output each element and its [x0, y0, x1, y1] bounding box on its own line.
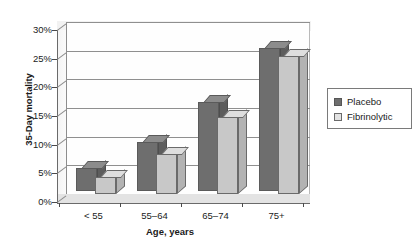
light-gray-swatch: [334, 113, 342, 121]
y-axis-tick-label: 0%: [24, 196, 52, 207]
legend-label: Fibrinolytic: [347, 111, 392, 122]
x-axis-tick-label: < 55: [84, 210, 103, 221]
y-axis-tick-labels: 0%5%10%15%20%25%30%: [24, 0, 52, 251]
x-axis-tick-label: 65–74: [202, 210, 228, 221]
bar-front-face: [259, 48, 280, 191]
y-axis-tick-label: 10%: [24, 139, 52, 150]
x-axis-tick-mark: [120, 203, 121, 207]
bar-front-face: [156, 154, 177, 194]
y-axis-tick-mark: [52, 116, 57, 117]
legend-entry-fibrinolytic: Fibrinolytic: [334, 109, 411, 124]
bar-fibrinolytic-2: [217, 117, 238, 194]
y-axis-tick-mark: [52, 202, 57, 203]
bar-front-face: [95, 177, 116, 194]
bar-fibrinolytic-0: [95, 177, 116, 194]
bar-fibrinolytic-1: [156, 154, 177, 194]
y-axis-tick-label: 30%: [24, 24, 52, 35]
x-axis-line: [57, 203, 310, 204]
bar-side-face: [238, 109, 247, 194]
bar-front-face: [76, 168, 97, 191]
chart-legend: PlaceboFibrinolytic: [327, 88, 412, 129]
x-axis-tick-mark: [242, 203, 243, 207]
bar-placebo-3: [259, 48, 280, 191]
y-axis-tick-label: 5%: [24, 167, 52, 178]
x-axis-tick-mark: [303, 203, 304, 207]
gridline: [66, 22, 310, 23]
y-axis-tick-mark: [52, 87, 57, 88]
bar-side-face: [299, 49, 308, 194]
x-axis-tick-label: 75+: [268, 210, 284, 221]
plot-area: [57, 22, 310, 203]
bar-placebo-1: [137, 142, 158, 191]
x-axis-title: Age, years: [0, 226, 340, 237]
bar-fibrinolytic-3: [278, 56, 299, 194]
dark-gray-swatch: [334, 98, 342, 106]
bar-chart-figure: 35-Day mortality 0%5%10%15%20%25%30% < 5…: [0, 0, 415, 251]
y-axis-tick-label: 20%: [24, 81, 52, 92]
x-axis-tick-mark: [181, 203, 182, 207]
x-axis-tick-mark: [59, 203, 60, 207]
bar-front-face: [217, 117, 238, 194]
bar-placebo-0: [76, 168, 97, 191]
bar-front-face: [198, 102, 219, 191]
legend-label: Placebo: [347, 96, 381, 107]
scan-bleed-artifact: [0, 243, 415, 251]
y-axis-tick-label: 25%: [24, 53, 52, 64]
y-axis-tick-mark: [52, 173, 57, 174]
bar-placebo-2: [198, 102, 219, 191]
bar-front-face: [137, 142, 158, 191]
y-axis-tick-label: 15%: [24, 110, 52, 121]
bar-front-face: [278, 56, 299, 194]
y-axis-tick-mark: [52, 145, 57, 146]
y-axis-tick-mark: [52, 59, 57, 60]
legend-entry-placebo: Placebo: [334, 94, 411, 109]
y-axis-tick-mark: [52, 30, 57, 31]
x-axis-tick-label: 55–64: [141, 210, 167, 221]
